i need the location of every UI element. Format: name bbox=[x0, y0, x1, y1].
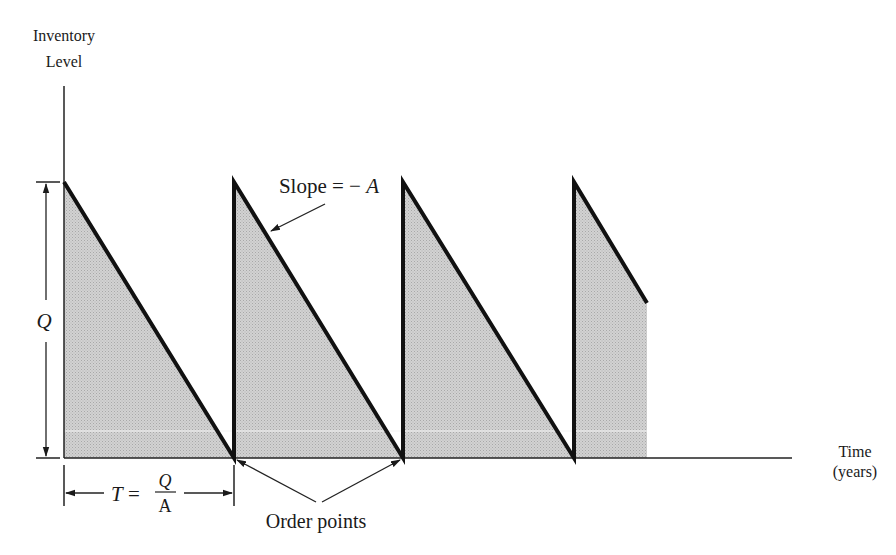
y-axis-label-line2: Level bbox=[46, 53, 83, 70]
t-dimension-lhs: T = bbox=[111, 482, 140, 506]
t-fraction-numerator: Q bbox=[159, 471, 172, 491]
t-fraction-denominator: A bbox=[159, 496, 172, 516]
x-axis-label-line2: (years) bbox=[833, 463, 877, 481]
order-points-label: Order points bbox=[266, 510, 367, 533]
q-dimension: Q bbox=[36, 182, 60, 458]
slope-label: Slope = − A bbox=[279, 174, 379, 198]
y-axis-label-line1: Inventory bbox=[33, 27, 95, 45]
order-point-arrow-1 bbox=[237, 460, 316, 502]
x-axis-label-line1: Time bbox=[838, 443, 871, 460]
t-dimension: T = Q A bbox=[64, 465, 234, 516]
inventory-sawtooth-diagram: Inventory Level Time (years) Q T = Q A S… bbox=[0, 0, 896, 555]
cycle-4-fill bbox=[574, 182, 647, 458]
q-dimension-label: Q bbox=[36, 309, 51, 333]
slope-arrow bbox=[271, 204, 325, 231]
order-point-arrow-2 bbox=[322, 460, 400, 502]
inventory-area-fill bbox=[64, 182, 647, 458]
